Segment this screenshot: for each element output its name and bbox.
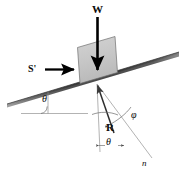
reaction-force-label: R <box>106 122 114 133</box>
normal-angle-label: θ <box>106 137 111 147</box>
incline-angle-construction <box>21 91 88 114</box>
friction-angle-label: φ <box>131 110 137 120</box>
diagram-canvas <box>0 0 185 180</box>
applied-force-label: S' <box>28 64 36 74</box>
incline-angle-label: θ <box>42 94 47 104</box>
normal-line-label: n <box>142 159 147 168</box>
vertical-reference-line <box>97 84 100 152</box>
physics-diagram: W S' θ R φ θ n <box>0 0 185 180</box>
weight-label: W <box>92 4 103 15</box>
